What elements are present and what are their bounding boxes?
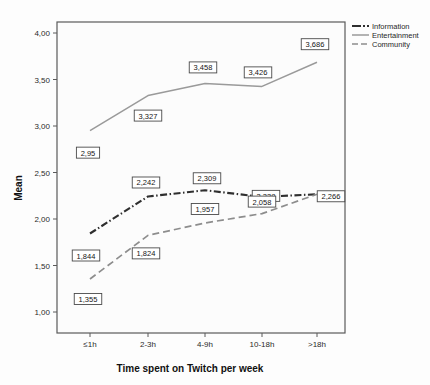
- data-point-label: 3,327: [134, 110, 162, 121]
- line-chart: 1,001,502,002,503,003,504,00 ≤1h2-3h4-9h…: [0, 0, 430, 385]
- data-point-label: 2,309: [193, 173, 221, 184]
- data-point-label: 2,266: [317, 191, 345, 202]
- legend-label: Information: [372, 22, 410, 31]
- legend-item-community[interactable]: Community: [352, 40, 410, 49]
- y-tick-label: 1,00: [34, 308, 50, 317]
- data-point-value: 2,266: [322, 192, 341, 201]
- legend-label: Entertainment: [372, 31, 420, 40]
- data-point-value: 3,426: [249, 68, 268, 77]
- y-tick-label: 3,00: [34, 122, 50, 131]
- data-point-label: 1,844: [72, 250, 100, 261]
- data-point-label: 1,957: [191, 203, 219, 214]
- x-axis-title: Time spent on Twitch per week: [117, 363, 264, 374]
- data-point-label: 1,355: [74, 293, 102, 304]
- data-point-label: 3,426: [244, 67, 272, 78]
- x-axis-ticks: ≤1h2-3h4-9h10-18h>18h: [83, 333, 326, 349]
- data-point-value: 2,058: [253, 198, 272, 207]
- y-axis-title: Mean: [13, 175, 24, 201]
- y-tick-label: 1,50: [34, 262, 50, 271]
- data-point-value: 2,95: [81, 149, 96, 158]
- data-point-label: 3,458: [189, 62, 217, 73]
- data-point-label: 1,824: [132, 248, 160, 259]
- data-point-value: 1,824: [137, 249, 156, 258]
- x-tick-label: 10-18h: [250, 340, 275, 349]
- y-axis-ticks: 1,001,502,002,503,003,504,00: [34, 29, 57, 317]
- x-tick-label: ≤1h: [83, 340, 96, 349]
- x-tick-label: 2-3h: [140, 340, 156, 349]
- y-tick-label: 3,50: [34, 76, 50, 85]
- data-point-label: 3,686: [301, 39, 329, 50]
- data-point-value: 3,458: [194, 63, 213, 72]
- data-point-value: 2,309: [198, 174, 217, 183]
- y-tick-label: 2,50: [34, 169, 50, 178]
- data-point-value: 3,327: [139, 112, 158, 121]
- x-tick-label: >18h: [308, 340, 326, 349]
- data-point-label: 2,95: [76, 147, 99, 158]
- chart-legend: InformationEntertainmentCommunity: [352, 22, 420, 49]
- x-tick-label: 4-9h: [197, 340, 213, 349]
- data-point-value: 2,242: [137, 178, 156, 187]
- legend-item-information[interactable]: Information: [352, 22, 410, 31]
- data-point-value: 1,355: [79, 295, 98, 304]
- chart-container: 1,001,502,002,503,003,504,00 ≤1h2-3h4-9h…: [0, 0, 430, 385]
- data-point-value: 3,686: [306, 40, 325, 49]
- data-point-label: 2,058: [248, 196, 276, 207]
- data-point-value: 1,844: [77, 252, 96, 261]
- legend-label: Community: [372, 40, 410, 49]
- y-tick-label: 4,00: [34, 29, 50, 38]
- data-point-value: 1,957: [196, 205, 215, 214]
- legend-item-entertainment[interactable]: Entertainment: [352, 31, 420, 40]
- y-tick-label: 2,00: [34, 215, 50, 224]
- data-point-label: 2,242: [132, 177, 160, 188]
